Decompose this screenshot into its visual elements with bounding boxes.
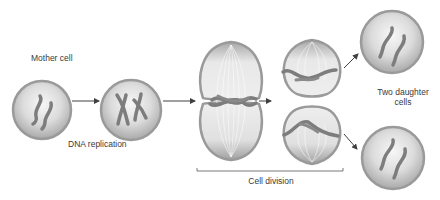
anaphase-cell (283, 40, 340, 164)
daughter-cell-bottom (362, 127, 424, 189)
cell-division-diagram (0, 0, 440, 200)
cell-division-label: Cell division (248, 176, 293, 186)
cell-division-bracket (197, 168, 343, 171)
metaphase-cell (200, 42, 262, 160)
mother-cell-label: Mother cell (31, 53, 73, 63)
dna-replication-label: DNA replication (68, 139, 127, 149)
arrow-icon (344, 54, 358, 68)
replicated-cell (101, 80, 161, 140)
two-daughter-label-line2: cells (394, 97, 411, 107)
mother-cell (13, 81, 71, 139)
two-daughter-label-line1: Two daughter (377, 87, 429, 97)
daughter-cell-top (361, 11, 423, 73)
arrow-icon (344, 134, 357, 149)
